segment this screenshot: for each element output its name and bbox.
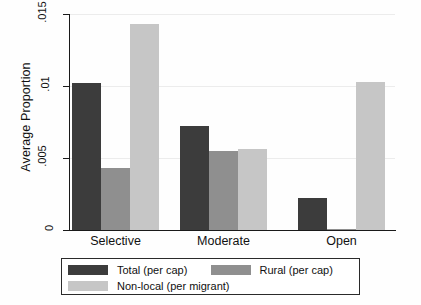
x-axis-line (63, 230, 396, 231)
bar (72, 83, 101, 230)
bar (356, 82, 385, 230)
legend-swatch-total (68, 265, 108, 275)
legend-label-total: Total (per cap) (117, 264, 187, 276)
legend-row-1: Total (per cap) Rural (per cap) (68, 262, 353, 278)
bar (327, 229, 356, 230)
bar (298, 198, 327, 230)
x-tick-label: Moderate (162, 234, 285, 248)
bar (101, 168, 130, 230)
y-tick-label: .005 (6, 150, 52, 162)
legend-label-nonlocal: Non-local (per migrant) (117, 280, 229, 292)
y-axis-title: Average Proportion (19, 17, 33, 217)
legend-item-total: Total (per cap) (68, 264, 211, 276)
legend-item-rural: Rural (per cap) (211, 264, 354, 276)
y-tick-label: 0 (6, 222, 52, 234)
bar-chart-figure: Average Proportion 0.005.01.015 Selectiv… (0, 0, 421, 305)
y-tick-label: .01 (6, 78, 52, 90)
y-tick-label: .015 (6, 6, 52, 18)
bar (180, 126, 209, 230)
bars-container (70, 14, 395, 230)
legend-swatch-rural (211, 265, 251, 275)
x-tick-label: Open (280, 234, 403, 248)
bar (209, 151, 238, 230)
legend-row-2: Non-local (per migrant) (68, 278, 353, 294)
legend-label-rural: Rural (per cap) (260, 264, 333, 276)
legend-item-nonlocal: Non-local (per migrant) (68, 280, 218, 292)
chart-legend: Total (per cap) Rural (per cap) Non-loca… (61, 258, 360, 295)
legend-swatch-nonlocal (68, 281, 108, 291)
bar (130, 24, 159, 230)
x-tick-label: Selective (54, 234, 177, 248)
bar (238, 149, 267, 230)
